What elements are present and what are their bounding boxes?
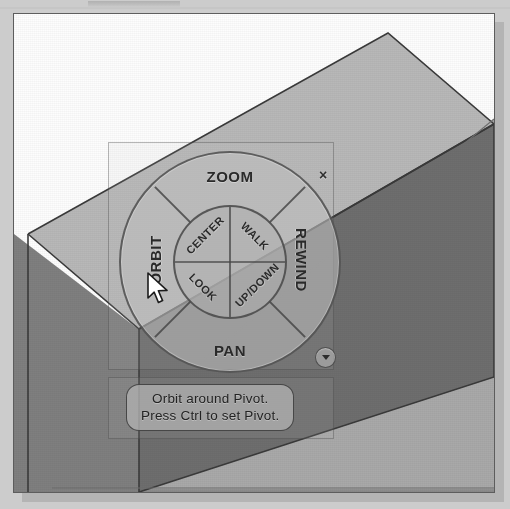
wheel-label-zoom[interactable]: ZOOM bbox=[207, 168, 254, 185]
close-icon[interactable]: × bbox=[315, 167, 331, 183]
wheel-label-pan[interactable]: PAN bbox=[214, 342, 246, 359]
cad-viewport[interactable]: ZOOM REWIND PAN ORBIT CENTER WALK UP/DOW… bbox=[13, 13, 495, 493]
tooltip-line-2: Press Ctrl to set Pivot. bbox=[141, 407, 279, 424]
wheel-label-rewind[interactable]: REWIND bbox=[293, 228, 310, 292]
scan-artifact-line bbox=[0, 7, 510, 9]
chevron-down-icon[interactable] bbox=[315, 347, 336, 368]
steering-wheel[interactable]: ZOOM REWIND PAN ORBIT CENTER WALK UP/DOW… bbox=[119, 151, 341, 373]
page-root: ZOOM REWIND PAN ORBIT CENTER WALK UP/DOW… bbox=[0, 0, 510, 509]
wheel-label-orbit[interactable]: ORBIT bbox=[147, 235, 164, 284]
chevron-glyph bbox=[322, 355, 330, 360]
tooltip: Orbit around Pivot. Press Ctrl to set Pi… bbox=[126, 384, 294, 431]
tooltip-line-1: Orbit around Pivot. bbox=[141, 390, 279, 407]
